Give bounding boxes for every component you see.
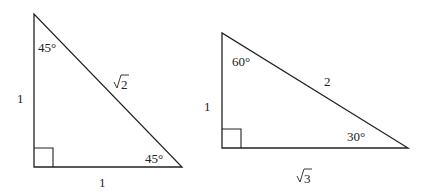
triangle-outline [34,14,182,167]
side-left-label: 1 [204,99,211,114]
angle-bottom-right-label: 45° [145,151,163,166]
angle-top-label: 60° [232,54,250,69]
triangle-30-60-90: 60° 30° 1 2 3 [204,33,408,186]
right-angle-marker [222,129,241,148]
hypotenuse-radicand: 2 [121,77,128,92]
hypotenuse-label: 2 [324,74,331,89]
right-angle-marker [34,148,53,167]
hypotenuse-label: 2 [114,75,129,92]
special-right-triangles-diagram: 45° 45° 1 1 2 60° 30° 1 2 3 [0,0,428,196]
side-left-label: 1 [17,91,24,106]
triangle-45-45-90: 45° 45° 1 1 2 [17,14,182,190]
angle-bottom-right-label: 30° [347,129,365,144]
side-bottom-label: 3 [297,169,312,186]
side-bottom-label: 1 [99,175,106,190]
angle-top-label: 45° [38,40,56,55]
triangle-outline [222,33,408,148]
bottom-radicand: 3 [304,171,311,186]
